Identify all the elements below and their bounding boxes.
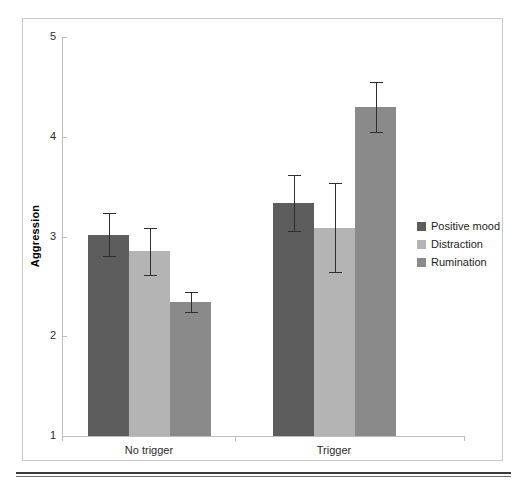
x-axis-separator-0 bbox=[62, 436, 63, 441]
x-tick-label-1: Trigger bbox=[279, 444, 389, 456]
error-bar bbox=[191, 292, 192, 312]
x-axis-separator-1 bbox=[235, 436, 236, 441]
legend-swatch-icon bbox=[417, 240, 426, 249]
legend-item: Distraction bbox=[417, 239, 503, 250]
error-bar bbox=[376, 82, 377, 132]
error-bar bbox=[294, 175, 295, 231]
y-tick-label-1: 1 bbox=[40, 430, 56, 441]
y-tick-label-2: 2 bbox=[40, 330, 56, 341]
error-bar-cap-lower bbox=[288, 231, 301, 232]
legend-swatch-icon bbox=[417, 222, 426, 231]
y-tick-label-5: 5 bbox=[40, 31, 56, 42]
bar bbox=[355, 107, 396, 436]
error-bar-cap-upper bbox=[329, 183, 342, 184]
error-bar-cap-lower bbox=[144, 275, 157, 276]
legend-item: Positive mood bbox=[417, 221, 503, 232]
error-bar-cap-lower bbox=[370, 132, 383, 133]
bottom-rule-secondary bbox=[16, 476, 511, 477]
y-tick-label-4: 4 bbox=[40, 131, 56, 142]
error-bar-cap-lower bbox=[329, 272, 342, 273]
x-axis-separator-2 bbox=[464, 436, 465, 441]
error-bar-cap-lower bbox=[103, 256, 116, 257]
bar bbox=[88, 235, 129, 436]
error-bar-cap-upper bbox=[185, 292, 198, 293]
error-bar-cap-upper bbox=[144, 228, 157, 229]
legend: Positive moodDistractionRumination bbox=[417, 221, 503, 275]
y-tick-label-3: 3 bbox=[40, 231, 56, 242]
y-axis-label: Aggression bbox=[26, 200, 44, 290]
error-bar-cap-upper bbox=[288, 175, 301, 176]
figure: Aggression 12345 No triggerTrigger Posit… bbox=[0, 0, 527, 490]
x-tick-label-0: No trigger bbox=[94, 444, 204, 456]
x-axis-line bbox=[62, 436, 464, 437]
legend-item-label: Positive mood bbox=[431, 221, 500, 232]
bar bbox=[129, 251, 170, 436]
bar bbox=[170, 302, 211, 436]
error-bar bbox=[109, 213, 110, 257]
bottom-rule bbox=[16, 472, 511, 474]
error-bar bbox=[335, 183, 336, 273]
legend-item: Rumination bbox=[417, 257, 503, 268]
legend-item-label: Distraction bbox=[431, 239, 483, 250]
error-bar bbox=[150, 228, 151, 276]
error-bar-cap-upper bbox=[103, 213, 116, 214]
error-bar-cap-lower bbox=[185, 312, 198, 313]
legend-item-label: Rumination bbox=[431, 257, 487, 268]
legend-swatch-icon bbox=[417, 258, 426, 267]
bar bbox=[273, 203, 314, 436]
error-bar-cap-upper bbox=[370, 82, 383, 83]
